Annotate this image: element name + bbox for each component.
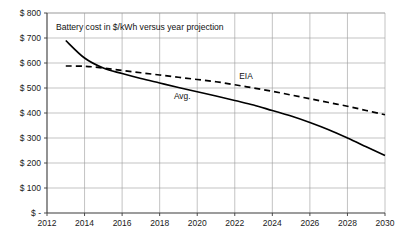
y-tick-label: $ 500 <box>20 83 42 93</box>
series-label-avg: Avg. <box>174 91 191 101</box>
y-axis-tick-labels: $ -$ 100$ 200$ 300$ 400$ 500$ 600$ 700$ … <box>20 8 42 218</box>
x-tick-label: 2024 <box>263 218 282 228</box>
x-tick-label: 2020 <box>188 218 207 228</box>
x-tick-label: 2016 <box>113 218 132 228</box>
series-annotation-labels: Avg.EIA <box>174 71 253 102</box>
x-tick-label: 2026 <box>300 218 319 228</box>
x-tick-label: 2018 <box>150 218 169 228</box>
y-tick-label: $ 800 <box>20 8 42 18</box>
chart-title: Battery cost in $/kWh versus year projec… <box>56 22 224 32</box>
y-tick-label: $ 100 <box>20 183 42 193</box>
battery-cost-line-chart: $ -$ 100$ 200$ 300$ 400$ 500$ 600$ 700$ … <box>0 0 403 239</box>
horizontal-gridlines <box>44 13 385 213</box>
y-tick-label: $ - <box>31 208 41 218</box>
x-tick-label: 2014 <box>75 218 94 228</box>
y-tick-label: $ 600 <box>20 58 42 68</box>
y-tick-label: $ 400 <box>20 108 42 118</box>
series-line-eia <box>66 66 385 115</box>
vertical-gridlines <box>47 13 385 216</box>
y-tick-label: $ 700 <box>20 33 42 43</box>
series-label-eia: EIA <box>239 71 253 81</box>
x-tick-label: 2030 <box>376 218 395 228</box>
y-tick-label: $ 200 <box>20 158 42 168</box>
y-tick-label: $ 300 <box>20 133 42 143</box>
x-tick-label: 2012 <box>38 218 57 228</box>
x-tick-label: 2022 <box>225 218 244 228</box>
x-axis-tick-labels: 2012201420162018202020222024202620282030 <box>38 218 395 228</box>
x-tick-label: 2028 <box>338 218 357 228</box>
